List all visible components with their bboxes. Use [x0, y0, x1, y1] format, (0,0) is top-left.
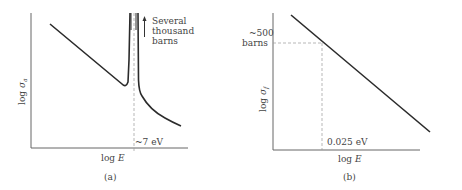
panel-a: Several thousand barns ~7 eV log E log σ… — [17, 13, 194, 182]
panel-b-y-axis-label: log σf — [258, 85, 270, 112]
resonance-energy-label: ~7 eV — [135, 137, 163, 147]
peak-note-line2: thousand — [152, 26, 194, 36]
panel-b-caption: (b) — [343, 172, 356, 182]
panel-a-x-axis-label: log E — [101, 153, 125, 163]
y-marker-line1: ~500 — [249, 28, 274, 38]
panel-a-y-axis-label: log σa — [17, 78, 28, 105]
peak-note-line1: Several — [152, 16, 187, 26]
panel-b-curve — [291, 15, 430, 132]
panel-b-x-axis-label: log E — [338, 154, 362, 164]
thermal-energy-label: 0.025 eV — [327, 137, 368, 147]
y-marker-line2: barns — [242, 38, 268, 48]
cross-section-diagram: Several thousand barns ~7 eV log E log σ… — [0, 0, 462, 190]
panel-a-caption: (a) — [104, 172, 116, 182]
arrow-head-icon — [143, 16, 147, 21]
panel-a-curve-left — [50, 13, 130, 86]
panel-b: ~500 barns 0.025 eV log E log σf (b) — [242, 13, 430, 182]
peak-note-line3: barns — [152, 36, 178, 46]
